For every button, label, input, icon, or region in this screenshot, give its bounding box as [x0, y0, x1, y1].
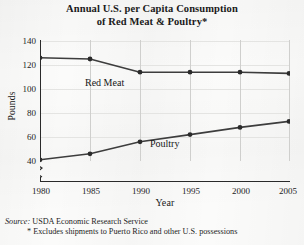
- x-axis-label: Year: [40, 197, 290, 208]
- x-tick-2000: 2000: [218, 186, 264, 196]
- series-line-red-meat: [40, 58, 289, 74]
- vertical-gridlines: [90, 40, 289, 161]
- asterisk-note: * Excludes shipments to Puerto Rico and …: [5, 227, 299, 237]
- x-tick-2005: 2005: [265, 186, 304, 196]
- axis-lines: [40, 40, 290, 182]
- y-axis-break-icon: [40, 164, 42, 177]
- plot-area: [40, 40, 290, 182]
- source-note: Source: USDA Economic Research Service: [5, 217, 299, 227]
- chart-title-line-1: Annual U.S. per Capita Consumption: [0, 3, 304, 16]
- footnotes: Source: USDA Economic Research Service *…: [5, 217, 299, 237]
- y-axis-label: Pounds: [7, 78, 17, 134]
- y-tick-120: 120: [2, 61, 40, 70]
- series-label-red-meat: Red Meat: [85, 77, 124, 88]
- chart-title-line-2: of Red Meat & Poultry*: [0, 16, 304, 29]
- y-tick-140: 140: [2, 37, 40, 46]
- x-tick-1980: 1980: [18, 186, 64, 196]
- source-value: USDA Economic Research Service: [30, 217, 148, 226]
- y-tick-40: 40: [2, 157, 40, 166]
- series-label-poultry: Poultry: [150, 138, 179, 149]
- horizontal-gridlines: [40, 41, 290, 137]
- x-tick-1995: 1995: [168, 186, 214, 196]
- x-tick-1990: 1990: [118, 186, 164, 196]
- y-axis-tick-labels: 140 120 100 80 60 40: [0, 0, 40, 245]
- chart-title: Annual U.S. per Capita Consumption of Re…: [0, 3, 304, 28]
- x-tick-1985: 1985: [68, 186, 114, 196]
- source-label: Source:: [5, 217, 30, 226]
- chart-page: Annual U.S. per Capita Consumption of Re…: [0, 0, 304, 245]
